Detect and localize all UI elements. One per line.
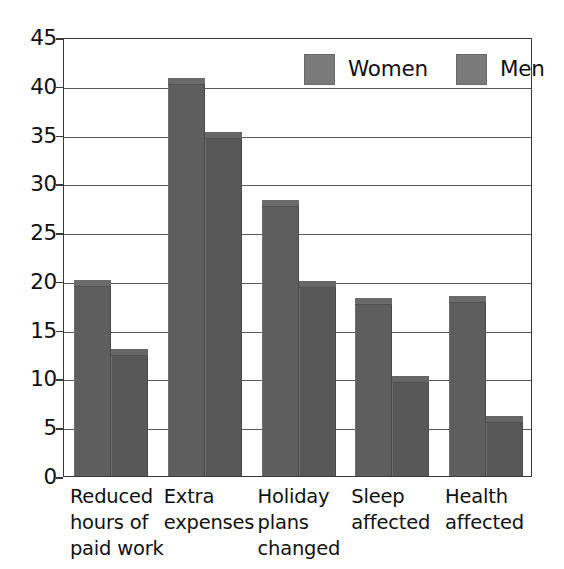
- legend-swatch-women: [304, 54, 335, 85]
- legend: WomenMen: [304, 47, 564, 91]
- y-axis-tick-mark: [56, 184, 63, 186]
- y-axis-tick-mark: [56, 379, 63, 381]
- legend-label-women: Women: [348, 58, 428, 80]
- y-axis-tick-label: 30: [5, 173, 57, 195]
- bar-men-5: [486, 416, 523, 476]
- bar-top-face: [74, 280, 111, 287]
- category-label-5: Health affected: [445, 484, 524, 536]
- y-axis-tick-label: 35: [5, 125, 57, 147]
- y-axis: 454035302520151050: [0, 38, 57, 477]
- y-axis-tick-label: 20: [5, 271, 57, 293]
- bar-women-5: [449, 296, 486, 476]
- legend-label-men: Men: [500, 58, 545, 80]
- bar-top-face: [392, 376, 429, 383]
- bar-top-face: [262, 200, 299, 207]
- x-axis-category-labels: Reduced hours of paid workExtra expenses…: [63, 484, 532, 564]
- bar-men-3: [299, 281, 336, 476]
- bar-top-face: [355, 298, 392, 305]
- y-axis-tick-mark: [56, 428, 63, 430]
- bar-men-2: [205, 132, 242, 476]
- bar-men-4: [392, 376, 429, 476]
- y-axis-tick-label: 25: [5, 222, 57, 244]
- bar-women-3: [262, 200, 299, 476]
- bar-women-1: [74, 280, 111, 476]
- y-axis-tick-label: 15: [5, 320, 57, 342]
- bar-chart: 454035302520151050 WomenMen Reduced hour…: [0, 0, 564, 569]
- bar-top-face: [168, 78, 205, 85]
- y-axis-tick-label: 10: [5, 368, 57, 390]
- category-label-4: Sleep affected: [351, 484, 430, 536]
- bar-top-face: [449, 296, 486, 303]
- category-label-1: Reduced hours of paid work: [70, 484, 164, 562]
- y-axis-tick-mark: [56, 233, 63, 235]
- y-axis-tick-mark: [56, 136, 63, 138]
- y-axis-tick-label: 0: [5, 466, 57, 488]
- legend-swatch-men: [456, 54, 487, 85]
- y-axis-tick-label: 45: [5, 27, 57, 49]
- bar-top-face: [486, 416, 523, 423]
- y-axis-tick-mark: [56, 38, 63, 40]
- bar-men-1: [111, 349, 148, 476]
- plot-area: WomenMen: [63, 38, 532, 477]
- legend-entry-men: Men: [456, 54, 564, 85]
- bar-top-face: [111, 349, 148, 356]
- category-label-2: Extra expenses: [164, 484, 255, 536]
- y-axis-tick-label: 40: [5, 76, 57, 98]
- y-axis-tick-mark: [56, 87, 63, 89]
- bar-top-face: [299, 281, 336, 288]
- bar-women-2: [168, 78, 205, 476]
- y-axis-tick-label: 5: [5, 417, 57, 439]
- bars-layer: [64, 39, 531, 476]
- legend-entry-women: Women: [304, 54, 456, 85]
- bar-women-4: [355, 298, 392, 476]
- bar-top-face: [205, 132, 242, 139]
- y-axis-tick-mark: [56, 477, 63, 479]
- y-axis-tick-mark: [56, 282, 63, 284]
- category-label-3: Holiday plans changed: [258, 484, 341, 562]
- y-axis-tick-mark: [56, 331, 63, 333]
